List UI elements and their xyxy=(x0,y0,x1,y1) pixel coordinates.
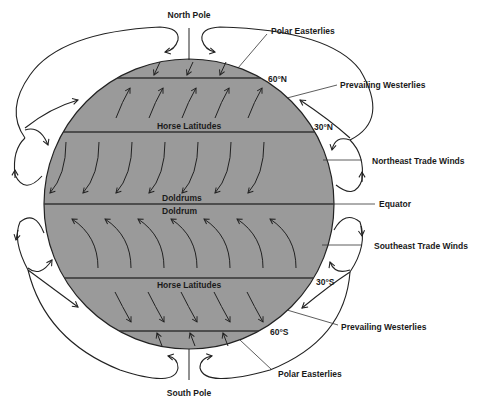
horse-latitudes-north-label: Horse Latitudes xyxy=(157,121,222,131)
north-pole-label: North Pole xyxy=(168,10,211,20)
south-pole-label: South Pole xyxy=(167,388,212,398)
prevailing-westerlies-north-label: Prevailing Westerlies xyxy=(340,80,426,90)
earth-globe xyxy=(40,59,340,349)
doldrums-label: Doldrums xyxy=(162,193,202,203)
prevailing-westerlies-south-label: Prevailing Westerlies xyxy=(341,322,427,332)
latitude-label-60n: 60°N xyxy=(268,74,287,84)
equator-label: Equator xyxy=(379,199,412,209)
polar-easterlies-north-label: Polar Easterlies xyxy=(271,26,335,36)
southeast-trade-winds-label: Southeast Trade Winds xyxy=(374,241,468,251)
northeast-trade-winds-label: Northeast Trade Winds xyxy=(372,156,465,166)
latitude-label-30s: 30°S xyxy=(316,277,335,287)
latitude-label-30n: 30°N xyxy=(314,122,333,132)
horse-latitudes-south-label: Horse Latitudes xyxy=(157,280,222,290)
doldrum-label: Doldrum xyxy=(162,206,197,216)
wind-circulation-diagram: North Pole South Pole 60°N 30°N 30°S 60°… xyxy=(0,0,485,409)
latitude-label-60s: 60°S xyxy=(270,327,289,337)
polar-easterlies-south-label: Polar Easterlies xyxy=(278,369,342,379)
